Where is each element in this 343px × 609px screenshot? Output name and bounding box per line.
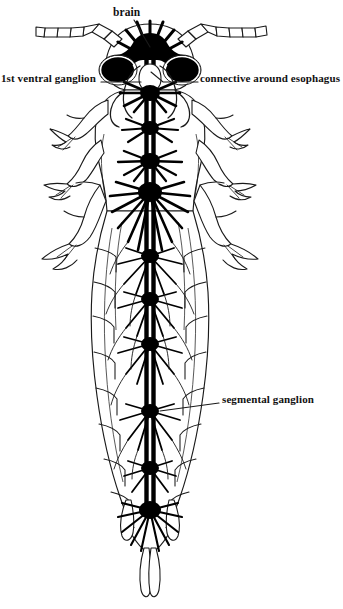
label-connective-around-esophagus: connective around esophagus [200, 72, 340, 84]
label-brain: brain [113, 6, 140, 18]
optic-lobe-left [102, 58, 134, 82]
cercus-right [149, 548, 160, 597]
cerci-group [140, 548, 160, 597]
insect-nervous-system-figure [0, 0, 343, 609]
optic-lobe-right [166, 58, 198, 82]
label-segmental-ganglion: segmental ganglion [222, 393, 314, 405]
label-first-ventral-ganglion: 1st ventral ganglion [1, 72, 96, 84]
